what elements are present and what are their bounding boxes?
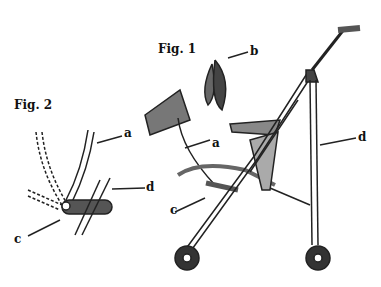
- fig1-title: Fig. 1: [158, 42, 196, 56]
- fig1-label-d: d: [358, 130, 366, 144]
- fig2-label-a: a: [124, 126, 132, 140]
- patent-drawing: Fig. 2 a d c Fig. 1 b a c d: [0, 0, 381, 287]
- fig2-title: Fig. 2: [14, 98, 52, 112]
- fig1-label-a: a: [212, 136, 220, 150]
- fig2-label-c: c: [14, 232, 21, 246]
- fig1-label-b: b: [250, 44, 258, 58]
- fig2-label-d: d: [146, 180, 154, 194]
- fig1-label-c: c: [170, 203, 177, 217]
